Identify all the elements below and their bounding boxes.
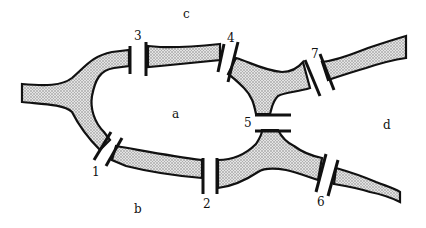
bridge-label-6: 6 bbox=[317, 196, 325, 208]
bridge-5 bbox=[255, 115, 291, 131]
bridge-label-3: 3 bbox=[134, 30, 142, 42]
region-label-c: c bbox=[183, 8, 190, 20]
river-upper-right-branch bbox=[322, 36, 406, 80]
river-upper-segment bbox=[148, 44, 220, 67]
region-label-b: b bbox=[134, 203, 142, 215]
bridge-label-5: 5 bbox=[244, 117, 252, 129]
river-left-trunk bbox=[22, 50, 129, 150]
bridge-label-2: 2 bbox=[203, 198, 211, 210]
bridge-3 bbox=[130, 42, 146, 76]
bridge-label-1: 1 bbox=[92, 166, 100, 178]
bridge-label-7: 7 bbox=[311, 48, 319, 60]
river-lower-right-branch bbox=[334, 168, 400, 202]
konigsberg-bridges-diagram bbox=[0, 0, 426, 228]
river-lower-junction bbox=[218, 130, 322, 188]
region-label-d: d bbox=[383, 119, 391, 131]
bridge-label-4: 4 bbox=[227, 32, 235, 44]
river-lower-segment bbox=[112, 146, 202, 178]
bridge-2 bbox=[203, 158, 217, 194]
region-label-a: a bbox=[172, 108, 179, 120]
river-upper-junction bbox=[228, 58, 310, 114]
